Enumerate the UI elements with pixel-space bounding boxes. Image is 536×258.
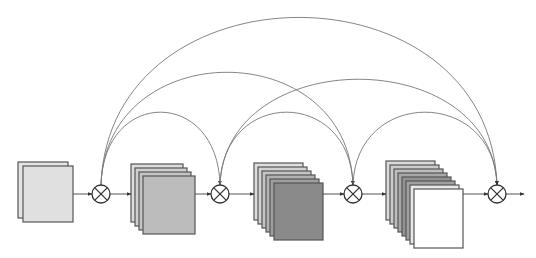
dense-block-diagram	[0, 0, 536, 258]
feature-map-stack-3	[254, 163, 323, 240]
multiply-operator-1	[92, 185, 110, 203]
feature-map-sheet	[274, 183, 323, 240]
feature-map-sheet	[143, 176, 195, 234]
multiply-operator-3	[344, 185, 362, 203]
multiply-operator-2	[211, 185, 229, 203]
multiply-operator-4	[488, 185, 506, 203]
feature-map-stack-4	[386, 161, 463, 248]
feature-map-sheet	[414, 189, 463, 248]
skip-connection-arcs	[101, 17, 497, 185]
feature-map-stack-2	[131, 164, 195, 234]
feature-map-stack-1	[18, 162, 73, 222]
skip-arc-op1-to-op4	[101, 17, 497, 185]
feature-map-sheet	[23, 166, 73, 222]
feature-map-stacks	[18, 161, 463, 248]
